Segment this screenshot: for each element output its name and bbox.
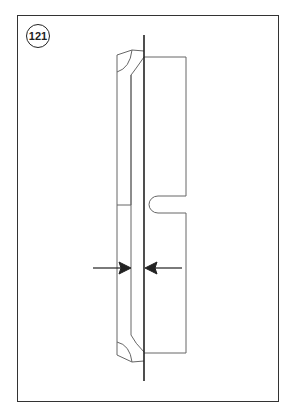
technical-drawing	[0, 0, 290, 417]
right-block	[144, 57, 186, 353]
arrow-left-icon	[145, 262, 182, 274]
arrow-right-icon	[93, 262, 131, 274]
blade-profile	[117, 50, 144, 362]
gap-arrows	[93, 262, 182, 274]
